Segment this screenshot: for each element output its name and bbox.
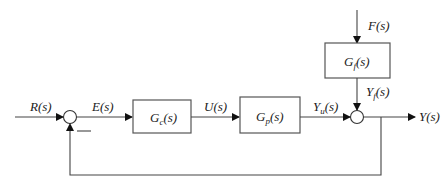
output-arrow-icon [408,113,416,121]
feedback-arrow-icon [66,123,74,131]
plant-block-label: Gp(s) [256,109,284,126]
feedback-path [70,117,381,175]
input-arrow-icon [56,113,64,121]
error-signal-label: E(s) [91,99,114,114]
input-signal-label: R(s) [29,99,52,114]
controller-block-label: Gc(s) [150,110,177,127]
block-diagram: R(s) E(s) Gc(s) U(s) Gp(s) Yu(s) F(s) Gf… [0,0,445,188]
control-arrow-icon [232,113,240,121]
error-summing-junction [64,111,77,124]
disturbance-output-arrow-icon [353,103,361,111]
output-summing-junction [351,111,364,124]
plant-output-label: Yu(s) [313,99,338,116]
error-arrow-icon [125,113,133,121]
disturbance-block-label: Gf(s) [344,54,370,71]
output-signal-label: Y(s) [419,109,440,124]
disturbance-output-label: Yf(s) [366,84,389,101]
control-signal-label: U(s) [204,99,227,114]
disturbance-signal-label: F(s) [367,18,390,33]
plant-output-arrow-icon [343,113,351,121]
